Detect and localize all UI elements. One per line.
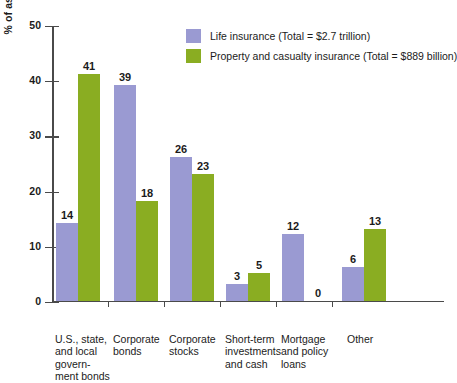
x-axis-label-corporate-bonds: Corporate bonds: [113, 333, 160, 358]
legend-swatch-icon: [186, 29, 201, 43]
y-axis-title: % of assets: [2, 0, 14, 50]
legend-label-property-casualty-insurance: Property and casualty insurance (Total =…: [210, 50, 457, 62]
legend-label-life-insurance: Life insurance (Total = $2.7 trillion): [210, 30, 370, 42]
legend-item-life-insurance[interactable]: Life insurance (Total = $2.7 trillion): [186, 29, 457, 43]
x-axis-label-corporate-stocks: Corporate stocks: [169, 333, 216, 358]
y-tick-label-20: 20: [29, 185, 41, 197]
bar-value-prop: 5: [256, 259, 262, 271]
chart-legend: Life insurance (Total = $2.7 trillion) P…: [186, 29, 457, 69]
y-tick-label-40: 40: [29, 74, 41, 86]
bar-life-insurance[interactable]: 26: [170, 157, 192, 301]
y-tick-label-10: 10: [29, 240, 41, 252]
bar-value-life: 12: [287, 220, 299, 232]
y-tick-label-0: 0: [35, 295, 41, 307]
y-axis-line: [52, 26, 54, 302]
bar-property-casualty[interactable]: 13: [364, 229, 386, 301]
bar-life-insurance[interactable]: 12: [282, 234, 304, 300]
legend-swatch-icon: [186, 49, 201, 63]
bar-value-life: 39: [119, 71, 131, 83]
bar-value-life: 6: [350, 253, 356, 265]
bar-life-insurance[interactable]: 14: [56, 223, 78, 300]
x-separator-tick: [164, 302, 165, 307]
bar-life-insurance[interactable]: 3: [226, 284, 248, 301]
bar-value-prop: 18: [141, 187, 153, 199]
x-axis-label-mortgage-and-policy-loans: Mortgage and policy loans: [281, 333, 328, 370]
bar-value-life: 14: [61, 209, 73, 221]
bar-value-prop: 41: [83, 60, 95, 72]
bar-value-prop: 23: [197, 160, 209, 172]
bar-property-casualty[interactable]: 41: [78, 74, 100, 300]
bar-value-prop: 13: [369, 215, 381, 227]
x-axis-label-other: Other: [347, 333, 373, 345]
legend-item-property-casualty-insurance[interactable]: Property and casualty insurance (Total =…: [186, 49, 457, 63]
bar-life-insurance[interactable]: 39: [114, 85, 136, 300]
bar-property-casualty[interactable]: 5: [248, 273, 270, 301]
x-separator-tick: [332, 302, 333, 307]
bar-value-life: 3: [234, 270, 240, 282]
y-tick-label-30: 30: [29, 129, 41, 141]
x-separator-tick: [276, 302, 277, 307]
x-axis-label-us-state-local-government-bonds: U.S., state, and local govern- ment bond…: [55, 333, 110, 383]
bar-property-casualty[interactable]: 23: [192, 174, 214, 301]
bar-property-casualty[interactable]: 18: [136, 201, 158, 300]
x-separator-tick: [108, 302, 109, 307]
x-axis-label-short-term-investments-and-cash: Short-term investments and cash: [225, 333, 281, 370]
bar-life-insurance[interactable]: 6: [342, 267, 364, 300]
bar-value-life: 26: [175, 143, 187, 155]
y-tick-label-50: 50: [29, 19, 41, 31]
bar-value-prop: 0: [315, 287, 321, 299]
x-separator-tick: [220, 302, 221, 307]
x-axis-line: [52, 301, 444, 303]
